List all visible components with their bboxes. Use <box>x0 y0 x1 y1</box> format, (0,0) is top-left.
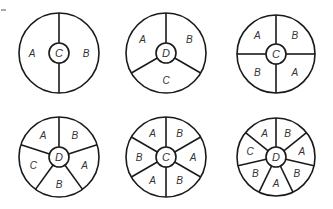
sector-label: A <box>272 178 280 189</box>
hub-label: C <box>55 47 63 59</box>
sector-label: C <box>30 160 38 171</box>
sector-label: C <box>162 75 170 86</box>
sector-label: A <box>39 130 47 141</box>
sector-label: C <box>247 146 255 157</box>
sector-label: A <box>290 67 298 78</box>
sector-label: A <box>80 160 88 171</box>
sector-label: A <box>297 146 305 157</box>
hub-label: C <box>162 151 170 163</box>
sector-label: B <box>252 168 259 179</box>
spinner-2: BCAD <box>126 13 206 93</box>
sector-label: A <box>189 152 197 163</box>
hub-label: C <box>272 48 280 60</box>
sector-label: B <box>293 168 300 179</box>
sector-label: A <box>260 128 268 139</box>
sector-label: A <box>148 175 156 186</box>
sector-label: B <box>291 30 298 41</box>
sector-label: A <box>253 30 261 41</box>
sector-label: B <box>136 152 143 163</box>
spinner-6: BABABCAD <box>237 118 315 196</box>
spinner-1: BAC <box>19 13 99 93</box>
sector-label: B <box>186 34 193 45</box>
hub-label: D <box>162 47 170 59</box>
sector-label: A <box>148 128 156 139</box>
sector-label: B <box>72 130 79 141</box>
spinner-5: BABABAC <box>126 117 206 197</box>
sector-label: A <box>28 48 36 59</box>
hub-label: D <box>272 151 280 163</box>
spinner-3: BABAC <box>237 15 315 93</box>
sector-label: B <box>284 128 291 139</box>
sector-label: B <box>176 175 183 186</box>
hub-label: D <box>55 151 63 163</box>
sector-label: B <box>254 67 261 78</box>
sector-label: B <box>56 179 63 190</box>
spinner-4: BABCAD <box>19 117 99 197</box>
spinner-diagrams: BACBCADBABACBABCADBABABACBABABCAD <box>0 0 333 209</box>
sector-label: B <box>176 128 183 139</box>
sector-label: B <box>83 48 90 59</box>
sector-label: A <box>138 34 146 45</box>
